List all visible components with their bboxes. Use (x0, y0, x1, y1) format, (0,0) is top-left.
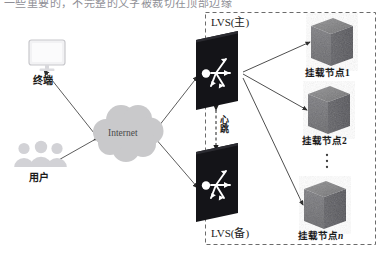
mount-node-n-prefix: 挂载节点 (298, 231, 338, 241)
mount-node-1-suffix: 1 (345, 68, 350, 78)
link-lvs-master-noden (243, 78, 303, 205)
terminal-label: 终端 (33, 76, 53, 86)
lvs-master-label: LVS(主) (211, 17, 249, 28)
router-switch-icon-backup (196, 143, 238, 222)
internet-label: Internet (108, 129, 138, 139)
diagram-vector-layer (0, 0, 381, 253)
mount-node-n-label: 挂载节点n (298, 232, 343, 242)
link-internet-lvs-master (155, 76, 198, 131)
link-lvs-master-node2 (243, 74, 307, 110)
router-switch-icon-master (196, 31, 238, 110)
link-lvs-master-node1 (243, 42, 310, 72)
heartbeat-label: 心跳 (220, 116, 230, 135)
link-internet-lvs-backup (155, 138, 198, 188)
vertical-ellipsis-icon (326, 154, 328, 168)
mount-node-2-suffix: 2 (342, 136, 347, 146)
users-label: 用户 (29, 173, 49, 183)
mount-node-1-prefix: 挂载节点 (305, 68, 345, 78)
mount-node-n-suffix: n (338, 231, 343, 241)
lvs-backup-label: LVS(备) (211, 228, 249, 239)
server-cube-icon-1 (311, 18, 353, 66)
monitor-icon (29, 40, 65, 71)
mount-node-2-prefix: 挂载节点 (302, 136, 342, 146)
server-cube-icon-n (304, 181, 346, 229)
network-architecture-diagram: 一些重要的，不完整的文字被裁切在顶部边缘 (0, 0, 381, 253)
users-group-icon (14, 141, 67, 167)
mount-node-2-label: 挂载节点2 (302, 137, 347, 147)
mount-node-1-label: 挂载节点1 (305, 69, 350, 79)
server-cube-icon-2 (308, 86, 350, 134)
